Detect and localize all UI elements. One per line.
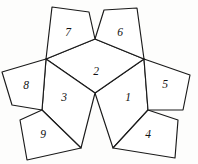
pentagon-label-2: 2: [93, 65, 99, 77]
pentagon-label-9: 9: [40, 128, 46, 140]
pentagon-label-4: 4: [145, 128, 151, 140]
pentagon-label-8: 8: [23, 79, 29, 91]
pentagon-net-figure: 123456789: [0, 0, 198, 164]
pentagon-label-6: 6: [117, 26, 123, 38]
pentagon-label-5: 5: [162, 78, 168, 90]
pentagon-label-3: 3: [60, 91, 67, 103]
pentagon-net-svg: 123456789: [0, 0, 198, 164]
pentagon-label-1: 1: [125, 91, 131, 103]
